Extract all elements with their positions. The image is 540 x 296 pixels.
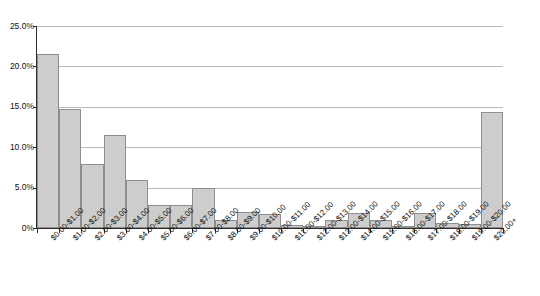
y-axis-tick-label: 5.0% — [0, 183, 34, 192]
y-axis-line — [36, 26, 37, 229]
plot-area — [37, 26, 503, 228]
y-axis-tick-label: 25.0% — [0, 22, 34, 31]
y-axis-tick-label: 20.0% — [0, 62, 34, 71]
bar-series — [37, 26, 503, 228]
bar — [37, 54, 59, 228]
y-axis-tick-label: 10.0% — [0, 143, 34, 152]
y-axis-tick-mark — [33, 147, 37, 148]
y-axis-tick-mark — [33, 188, 37, 189]
x-axis-tick-labels: $0.00-$1.00$1.00-$2.00$2.00-$3.00$3.00-$… — [0, 228, 540, 296]
y-axis-tick-mark — [33, 26, 37, 27]
y-axis-tick-mark — [33, 66, 37, 67]
histogram-chart: 25.0%20.0%15.0%10.0%5.0%0% $0.00-$1.00$1… — [0, 0, 540, 296]
y-axis-tick-label: 15.0% — [0, 102, 34, 111]
y-axis-tick-mark — [33, 107, 37, 108]
